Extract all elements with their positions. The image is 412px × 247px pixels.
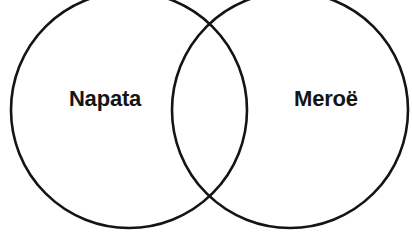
venn-circle-right[interactable] [172,0,408,228]
venn-label-left: Napata [69,88,141,110]
venn-circle-left[interactable] [11,0,247,228]
venn-label-right: Meroë [294,88,358,110]
venn-diagram-canvas [0,0,412,247]
venn-diagram: Napata Meroë [0,0,412,247]
